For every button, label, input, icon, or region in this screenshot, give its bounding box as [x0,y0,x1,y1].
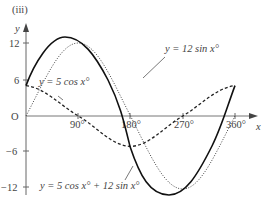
y-axis-arrow-icon [23,23,29,32]
y-tick-m6: −6 [6,146,17,157]
annotation-5cos: y = 5 cos x° [38,76,90,87]
y-tick-6: 6 [14,75,19,86]
x-tick-90: 90° [70,119,85,130]
y-axis-label: y [14,23,20,34]
annotation-sum: y = 5 cos x° + 12 sin x° [39,180,140,191]
annotation-sum-leader [125,166,133,180]
annotation-12sin-leader [143,57,165,78]
x-axis-arrow-icon [249,113,258,119]
chart: (iii) y x O 12 6 −6 −12 90° 180° 270° 36… [0,0,264,201]
axes [23,23,258,195]
panel-label: (iii) [12,4,28,16]
annotation-12sin: y = 12 sin x° [164,43,220,54]
y-tick-m12: −12 [1,182,17,193]
annotation-5cos-leader [58,96,63,100]
origin-label: O [11,111,19,122]
y-tick-12: 12 [9,38,20,49]
x-tick-270: 270° [174,119,194,130]
x-axis-label: x [255,121,261,132]
